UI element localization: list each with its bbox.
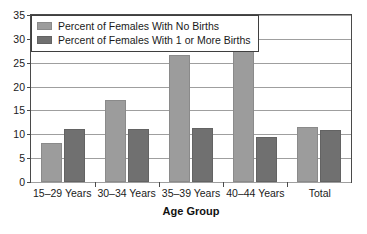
x-axis-tick-label: 40–44 Years: [223, 188, 287, 199]
x-tick-mark: [287, 182, 288, 187]
x-axis-tick-label: 35–39 Years: [159, 188, 223, 199]
x-axis-title: Age Group: [30, 206, 352, 217]
bar[interactable]: [256, 137, 277, 182]
y-axis-tick-label: 0: [19, 177, 25, 188]
bar[interactable]: [105, 100, 126, 182]
gridline: [31, 182, 351, 183]
bar-group: [287, 15, 351, 182]
x-axis-tick-label: Total: [288, 188, 352, 199]
x-axis-tick-label: 30–34 Years: [94, 188, 158, 199]
bar[interactable]: [128, 129, 149, 182]
bar[interactable]: [297, 127, 318, 182]
legend-swatch-icon: [37, 36, 52, 44]
y-axis-tick-label: 5: [19, 153, 25, 164]
bar[interactable]: [41, 143, 62, 182]
y-axis-tick-label: 35: [13, 10, 25, 21]
bar[interactable]: [192, 128, 213, 182]
y-axis-tick-label: 25: [13, 57, 25, 68]
x-tick-mark: [223, 182, 224, 187]
legend-swatch-icon: [37, 22, 52, 30]
y-axis-tick-label: 15: [13, 105, 25, 116]
y-axis-tick-label: 30: [13, 34, 25, 45]
x-tick-mark: [95, 182, 96, 187]
bar-chart: 05101520253035 Percent of Females With N…: [0, 0, 367, 234]
y-axis-tick-label: 10: [13, 129, 25, 140]
bar[interactable]: [320, 130, 341, 182]
legend-label: Percent of Females With 1 or More Births: [58, 35, 251, 46]
bar[interactable]: [64, 129, 85, 182]
x-tick-mark: [159, 182, 160, 187]
x-axis-tick-labels: 15–29 Years30–34 Years35–39 Years40–44 Y…: [30, 188, 352, 199]
legend-label: Percent of Females With No Births: [58, 21, 219, 32]
bar[interactable]: [233, 36, 254, 182]
legend-item[interactable]: Percent of Females With 1 or More Births: [37, 33, 251, 47]
x-axis-tick-label: 15–29 Years: [30, 188, 94, 199]
legend: Percent of Females With No BirthsPercent…: [31, 15, 259, 52]
bar[interactable]: [169, 55, 190, 182]
y-tick-mark: [27, 182, 31, 183]
legend-item[interactable]: Percent of Females With No Births: [37, 19, 251, 33]
y-axis-tick-label: 20: [13, 81, 25, 92]
